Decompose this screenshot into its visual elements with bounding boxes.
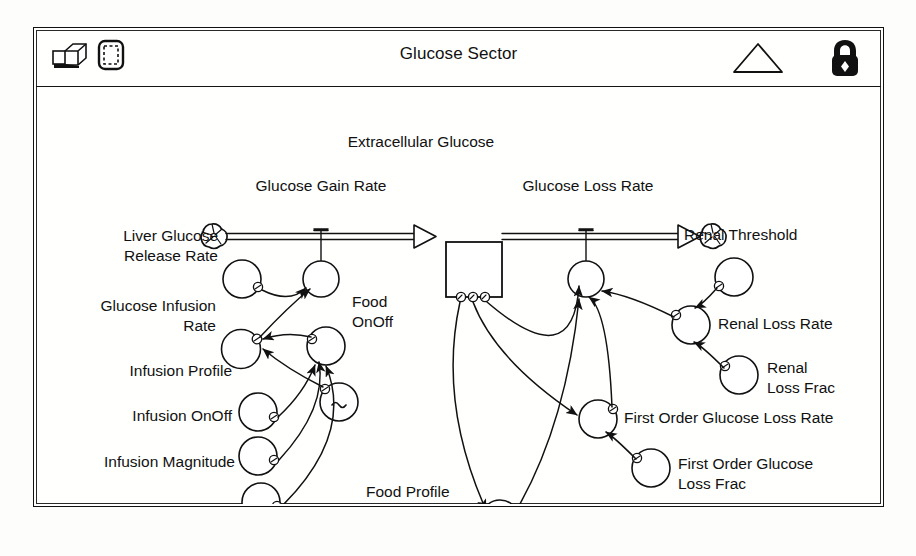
- label-renal-threshold: Renal Threshold: [684, 226, 797, 243]
- label-glucose-loss-rate: Glucose Loss Rate: [488, 177, 688, 194]
- titlebar-right-icons: [731, 38, 861, 78]
- label-liver-glucose-release-rate-line2: Release Rate: [46, 247, 218, 264]
- label-extracellular-glucose: Extracellular Glucose: [326, 133, 516, 150]
- port-first-order-glucose-loss-rate: [608, 404, 617, 413]
- port-liver-glucose-release-rate: [253, 282, 262, 291]
- diagram-canvas[interactable]: Extracellular Glucose Glucose Gain Rate …: [36, 87, 881, 504]
- stock-extracellular-glucose: [446, 242, 502, 297]
- var-infusion-magnitude: [242, 483, 280, 504]
- sector-window: Glucose Sector: [33, 27, 884, 507]
- label-first-order-glucose-loss-frac-line2: Loss Frac: [678, 475, 746, 492]
- var-insulin-mediated-glucose-loss-rate: [481, 500, 519, 504]
- glucose-gain-rate-valve-circle: [303, 261, 339, 297]
- label-first-order-glucose-loss-rate: First Order Glucose Loss Rate: [624, 409, 833, 426]
- lock-icon[interactable]: [829, 38, 861, 78]
- label-infusion-magnitude: Infusion Magnitude: [36, 453, 235, 470]
- glucose-loss-flow-pipe: [502, 225, 700, 248]
- label-renal-loss-frac-line1: Renal: [767, 359, 808, 376]
- label-infusion-profile: Infusion Profile: [36, 362, 232, 379]
- stock-glucose-connector-dots: [456, 292, 489, 301]
- label-glucose-infusion-rate-line1: Glucose Infusion: [36, 297, 216, 314]
- port-renal-loss-rate: [671, 310, 680, 319]
- label-glucose-gain-rate: Glucose Gain Rate: [221, 177, 421, 194]
- label-renal-loss-rate: Renal Loss Rate: [718, 315, 833, 332]
- var-food-onoff: [307, 327, 345, 365]
- var-infusion-profile: [239, 393, 277, 431]
- glucose-loss-valve: [579, 229, 593, 265]
- label-first-order-glucose-loss-frac-line1: First Order Glucose: [678, 455, 813, 472]
- label-food-onoff-line2: OnOff: [352, 313, 393, 330]
- port-infusion-profile: [269, 412, 278, 421]
- glucose-loss-rate-valve-circle: [568, 261, 604, 297]
- label-glucose-infusion-rate-line2: Rate: [36, 317, 216, 334]
- window-titlebar: Glucose Sector: [36, 30, 881, 87]
- label-renal-loss-frac-line2: Loss Frac: [767, 379, 835, 396]
- screenshot-root: Glucose Sector: [0, 0, 916, 556]
- port-first-order-glucose-loss-frac: [632, 453, 641, 462]
- label-liver-glucose-release-rate-line1: Liver Glucose: [46, 227, 218, 244]
- label-infusion-onoff: Infusion OnOff: [36, 407, 232, 424]
- var-liver-glucose-release-rate: [223, 260, 261, 298]
- label-food-profile: Food Profile: [366, 483, 450, 500]
- label-food-onoff-line1: Food: [352, 293, 387, 310]
- triangle-icon[interactable]: [731, 41, 785, 75]
- port-infusion-onoff: [269, 455, 278, 464]
- glucose-gain-flow-pipe: [226, 225, 436, 248]
